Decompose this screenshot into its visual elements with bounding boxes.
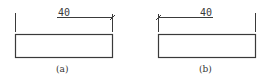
dimension-label-b: 40 (200, 7, 212, 18)
figure-a (16, 13, 116, 58)
caption-b: (b) (199, 64, 212, 74)
dimension-label-a: 40 (58, 7, 70, 18)
caption-a: (a) (56, 64, 68, 74)
rectangle-shape (159, 35, 256, 58)
figure-b (156, 13, 256, 58)
rectangle-shape (16, 35, 113, 58)
diagram-canvas: 40 40 (0, 0, 270, 75)
